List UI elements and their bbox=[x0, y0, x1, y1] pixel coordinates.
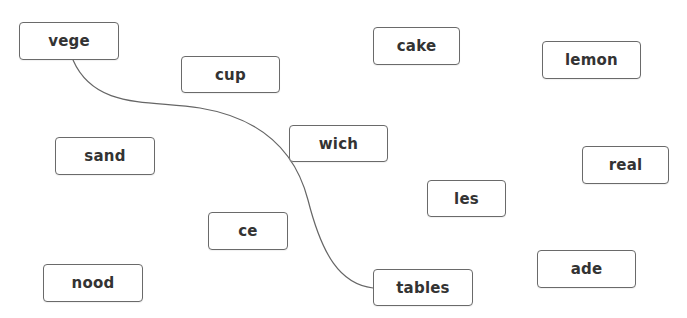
word-label: ade bbox=[571, 260, 603, 278]
word-box-vege[interactable]: vege bbox=[19, 22, 119, 60]
word-label: nood bbox=[72, 274, 115, 292]
word-box-ce[interactable]: ce bbox=[208, 212, 288, 250]
word-label: cake bbox=[397, 37, 437, 55]
word-label: ce bbox=[238, 222, 257, 240]
word-label: vege bbox=[48, 32, 90, 50]
matching-canvas: vege cup cake lemon wich sand real les c… bbox=[0, 0, 687, 318]
word-label: tables bbox=[396, 279, 449, 297]
word-box-wich[interactable]: wich bbox=[289, 125, 388, 162]
word-label: les bbox=[454, 190, 479, 208]
word-box-ade[interactable]: ade bbox=[537, 250, 636, 288]
word-label: real bbox=[609, 156, 643, 174]
word-label: sand bbox=[84, 147, 125, 165]
word-box-cup[interactable]: cup bbox=[181, 56, 280, 93]
word-box-cake[interactable]: cake bbox=[373, 27, 460, 65]
word-box-sand[interactable]: sand bbox=[55, 137, 155, 175]
word-label: lemon bbox=[565, 51, 618, 69]
word-box-nood[interactable]: nood bbox=[43, 264, 143, 302]
word-box-les[interactable]: les bbox=[427, 180, 506, 217]
word-label: wich bbox=[319, 135, 358, 153]
word-label: cup bbox=[215, 66, 246, 84]
word-box-lemon[interactable]: lemon bbox=[542, 41, 641, 79]
word-box-real[interactable]: real bbox=[582, 146, 669, 184]
word-box-tables[interactable]: tables bbox=[373, 269, 473, 306]
